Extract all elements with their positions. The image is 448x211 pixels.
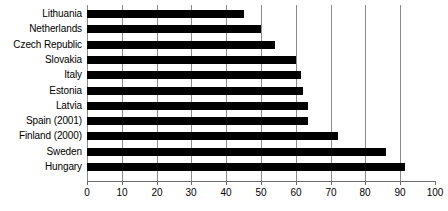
bar: [87, 117, 308, 125]
bar: [87, 71, 301, 79]
bar: [87, 163, 405, 171]
category-label: Latvia: [0, 101, 82, 111]
category-label: Slovakia: [0, 55, 82, 65]
tick-label: 0: [72, 187, 102, 198]
tick-mark: [191, 181, 192, 185]
value-axis: 0102030405060708090100: [87, 181, 435, 211]
tick-mark: [435, 181, 436, 185]
tick-mark: [261, 181, 262, 185]
bar: [87, 132, 338, 140]
bar: [87, 10, 244, 18]
tick-mark: [400, 181, 401, 185]
tick-label: 80: [350, 187, 380, 198]
tick-mark: [122, 181, 123, 185]
category-label: Italy: [0, 70, 82, 80]
bar: [87, 148, 386, 156]
bar-series: [87, 5, 435, 181]
tick-mark: [157, 181, 158, 185]
tick-label: 40: [211, 187, 241, 198]
category-label: Finland (2000): [0, 131, 82, 141]
tick-label: 60: [281, 187, 311, 198]
category-label: Lithuania: [0, 9, 82, 19]
category-label: Hungary: [0, 162, 82, 172]
tick-label: 90: [385, 187, 415, 198]
tick-mark: [296, 181, 297, 185]
tick-label: 10: [107, 187, 137, 198]
tick-mark: [365, 181, 366, 185]
bar: [87, 102, 308, 110]
tick-label: 20: [142, 187, 172, 198]
category-label: Czech Republic: [0, 40, 82, 50]
category-label: Spain (2001): [0, 116, 82, 126]
tick-mark: [87, 181, 88, 185]
tick-mark: [226, 181, 227, 185]
category-label: Netherlands: [0, 24, 82, 34]
bar: [87, 25, 261, 33]
category-axis: LithuaniaNetherlandsCzech RepublicSlovak…: [0, 0, 85, 181]
tick-label: 70: [316, 187, 346, 198]
tick-label: 100: [420, 187, 448, 198]
tick-label: 50: [246, 187, 276, 198]
category-label: Sweden: [0, 147, 82, 157]
bar: [87, 41, 275, 49]
bar: [87, 56, 296, 64]
tick-label: 30: [176, 187, 206, 198]
category-label: Estonia: [0, 86, 82, 96]
tick-mark: [331, 181, 332, 185]
bar: [87, 87, 303, 95]
plot-area: [87, 5, 435, 181]
